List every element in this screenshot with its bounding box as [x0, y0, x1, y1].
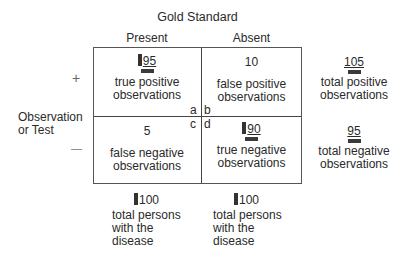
row-total-positive: 105 total positive observations: [306, 56, 402, 102]
column-header-present: Present: [93, 32, 201, 45]
marker-underbar-icon: [348, 139, 361, 143]
row-total-negative: 95 total negative observations: [306, 125, 402, 171]
marker-bar-icon: [138, 54, 142, 66]
horizontal-divider: [94, 116, 301, 117]
cell-b-false-positive: 10 false positive observations: [201, 56, 302, 104]
cell-d-true-negative: 90 true negative observations: [201, 122, 302, 170]
cell-c-line2: observations: [94, 160, 200, 173]
marker-underbar-icon: [348, 70, 361, 74]
row-total-positive-value: 105: [306, 56, 402, 74]
cell-c-letter: c: [190, 118, 196, 130]
column-total-absent-line3: disease: [213, 235, 293, 248]
marker-bar-icon: [242, 122, 246, 134]
cell-c-false-negative: 5 false negative observations: [94, 125, 200, 173]
column-total-present: 100 total persons with the disease: [112, 193, 192, 248]
row-total-positive-line2: observations: [306, 89, 402, 102]
cell-b-line2: observations: [201, 91, 302, 104]
cell-d-value: 90: [201, 122, 302, 141]
cell-a-line2: observations: [94, 89, 200, 102]
column-total-present-line3: disease: [112, 235, 192, 248]
row-total-negative-line2: observations: [306, 158, 402, 171]
cell-c-value: 5: [94, 125, 200, 138]
cell-a-true-positive: 95 true positive observations: [94, 54, 200, 102]
marker-bar-icon: [134, 193, 138, 205]
column-total-absent-value: 100: [213, 193, 293, 207]
column-total-present-value: 100: [112, 193, 192, 207]
cell-d-line2: observations: [201, 157, 302, 170]
row-sign-negative: —: [71, 142, 82, 155]
marker-underbar-icon: [141, 69, 154, 73]
row-axis-label-line2: or Test: [18, 124, 83, 137]
row-axis-label: Observation or Test: [18, 111, 83, 137]
cell-b-value: 10: [201, 56, 302, 69]
row-sign-positive: +: [72, 72, 80, 85]
row-total-negative-value: 95: [306, 125, 402, 143]
column-header-absent: Absent: [200, 32, 303, 45]
cell-a-value: 95: [94, 54, 200, 73]
column-total-absent: 100 total persons with the disease: [213, 193, 293, 248]
marker-bar-icon: [234, 193, 238, 205]
cell-a-letter: a: [190, 104, 197, 116]
diagram-title: Gold Standard: [93, 11, 302, 24]
cell-d-letter: d: [204, 118, 211, 130]
cell-b-letter: b: [204, 104, 211, 116]
marker-underbar-icon: [245, 137, 258, 141]
